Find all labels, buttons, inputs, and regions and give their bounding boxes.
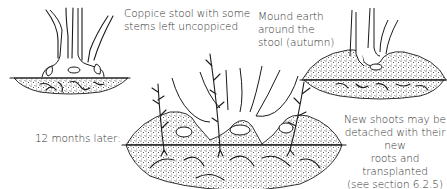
mound-caption-line-3: stool (autumn) [258,36,334,49]
shoots-caption-line-1: New shoots may be [340,113,447,126]
stool-caption: Coppice stool with some stems left uncop… [124,7,250,33]
stool-caption-line-2: stems left uncoppiced [124,20,250,33]
mound-caption: Mound earth around the stool (autumn) [258,10,334,49]
mound-caption-line-1: Mound earth [258,10,334,23]
stool-caption-line-1: Coppice stool with some [124,7,250,20]
shoots-caption-line-4: (see section 6.2.5) [340,178,447,189]
coppice-stool-drawing [10,8,130,94]
shoots-caption-line-2: detached with their new [340,126,447,152]
shoots-caption: New shoots may be detached with their ne… [340,113,447,189]
mound-caption-line-2: around the [258,23,334,36]
shoots-caption-line-3: roots and transplanted [340,152,447,178]
twelve-months-caption: 12 months later: [35,132,121,145]
